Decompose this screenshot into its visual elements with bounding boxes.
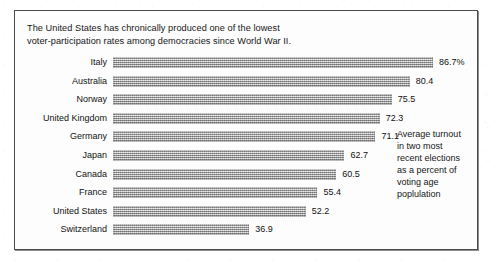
bar-category-label: France <box>15 187 107 198</box>
bar-track: 52.2 <box>113 204 479 223</box>
bar-track: 36.9 <box>113 222 479 241</box>
bar-row: United Kingdom72.3 <box>15 111 479 130</box>
bar-category-label: United Kingdom <box>15 113 107 124</box>
bar-value-label: 55.4 <box>323 186 341 198</box>
bar <box>113 206 306 217</box>
bar-track: 72.3 <box>113 111 479 130</box>
bar-category-label: Norway <box>15 94 107 105</box>
bar-value-label: 60.5 <box>342 168 360 180</box>
bar-value-label: 36.9 <box>255 223 273 235</box>
bar-row: United States52.2 <box>15 204 479 223</box>
bar-category-label: Canada <box>15 169 107 180</box>
bar-row: Australia80.4 <box>15 74 479 93</box>
bar-value-label: 62.7 <box>350 149 368 161</box>
bar-value-label: 80.4 <box>416 75 434 87</box>
bar-row: Norway75.5 <box>15 92 479 111</box>
figure-frame: The United States has chronically produc… <box>14 10 478 250</box>
bar-category-label: Italy <box>15 57 107 68</box>
bar <box>113 150 344 161</box>
bar-category-label: Germany <box>15 131 107 142</box>
bar <box>113 113 380 124</box>
bar <box>113 131 375 142</box>
bar-track: 80.4 <box>113 74 479 93</box>
chart-annotation: Average turnout in two most recent elect… <box>397 129 481 200</box>
bar <box>113 224 249 235</box>
bar-category-label: Switzerland <box>15 224 107 235</box>
bar-track: 86.7% <box>113 55 479 74</box>
bar-track: 75.5 <box>113 92 479 111</box>
bar-category-label: Australia <box>15 76 107 87</box>
bar-row: Italy86.7% <box>15 55 479 74</box>
bar-category-label: United States <box>15 206 107 217</box>
chart-headline: The United States has chronically produc… <box>27 22 447 47</box>
bar <box>113 187 317 198</box>
bar <box>113 169 336 180</box>
bar <box>113 94 392 105</box>
bar <box>113 57 433 68</box>
bar-category-label: Japan <box>15 150 107 161</box>
bar-value-label: 72.3 <box>386 112 404 124</box>
bar-value-label: 86.7% <box>439 56 465 68</box>
bar <box>113 76 410 87</box>
bar-row: Switzerland36.9 <box>15 222 479 241</box>
bar-value-label: 52.2 <box>312 205 330 217</box>
bar-value-label: 75.5 <box>398 93 416 105</box>
